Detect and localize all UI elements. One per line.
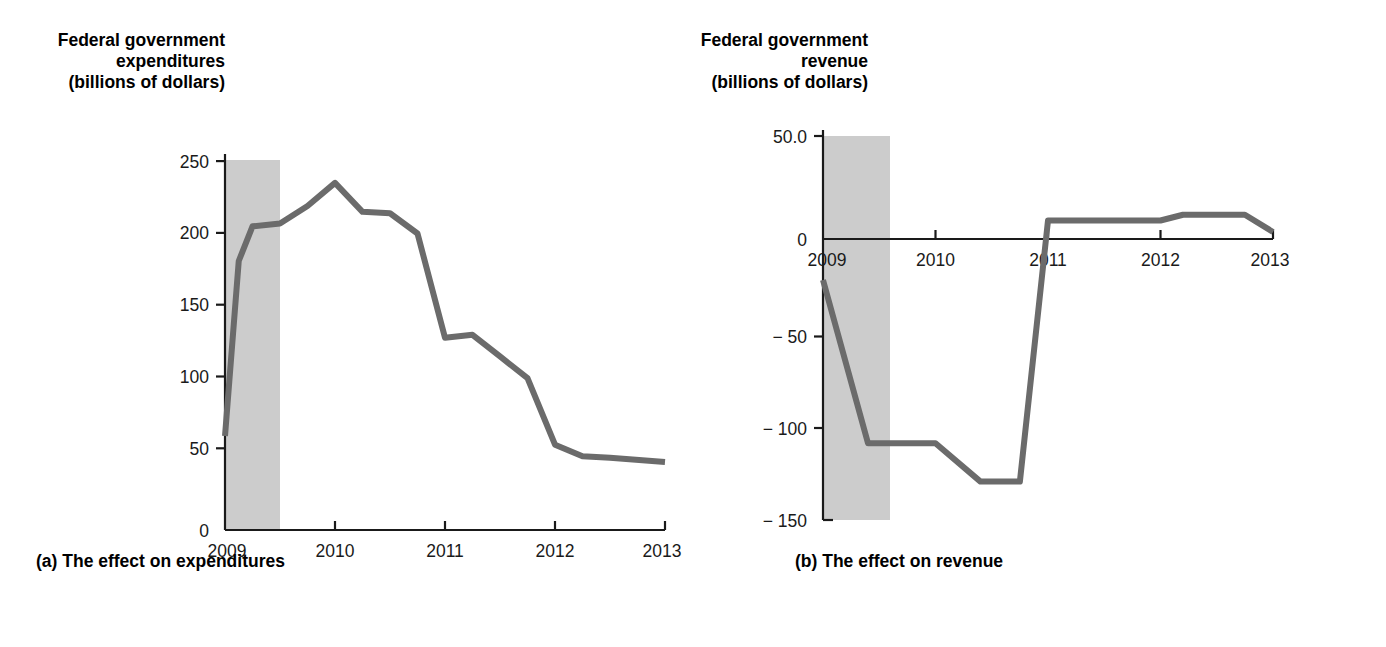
plot-area-expenditures: 250 200 150 100 50 0 2009 2010: [225, 130, 675, 530]
y-tick-labels: 50.0 0 − 50 − 100 − 150: [763, 127, 808, 531]
x-tick-label: 2010: [916, 250, 955, 270]
axis-title-revenue: Federal government revenue (billions of …: [653, 30, 868, 93]
x-tick-label: 2011: [426, 541, 464, 561]
figure-fiscal-stimulus-effects: Federal government expenditures (billion…: [0, 0, 1386, 647]
y-tick-label: − 150: [763, 511, 808, 531]
y-tick-label: 200: [180, 223, 209, 243]
x-tick-label: 2011: [1029, 250, 1067, 270]
y-tick-label: 0: [797, 230, 807, 250]
axis-title-expenditures: Federal government expenditures (billion…: [10, 30, 225, 93]
y-tick-label: 0: [199, 521, 209, 541]
chart-expenditures: 250 200 150 100 50 0 2009 2010: [225, 130, 675, 560]
caption-revenue: (b) The effect on revenue: [795, 551, 1003, 572]
x-tick-label: 2012: [1141, 250, 1180, 270]
y-tick-label: − 50: [772, 327, 807, 347]
y-ticks: [216, 161, 225, 448]
x-tick-label: 2009: [808, 250, 847, 270]
x-tick-label: 2012: [536, 541, 575, 561]
y-tick-labels: 250 200 150 100 50 0: [180, 152, 209, 541]
panel-revenue: Federal government revenue (billions of …: [693, 0, 1386, 647]
plot-area-revenue: 50.0 0 − 50 − 100 − 150 2009 2010 2011: [823, 130, 1283, 530]
chart-revenue: 50.0 0 − 50 − 100 − 150 2009 2010 2011: [823, 130, 1283, 560]
y-tick-label: 50.0: [773, 127, 807, 147]
y-tick-label: 50: [190, 439, 210, 459]
x-tick-label: 2010: [316, 541, 355, 561]
x-ticks: [335, 521, 665, 530]
y-tick-label: 250: [180, 152, 209, 172]
caption-expenditures: (a) The effect on expenditures: [36, 551, 285, 572]
recession-band: [823, 136, 890, 520]
panel-expenditures: Federal government expenditures (billion…: [0, 0, 693, 647]
y-tick-label: − 100: [763, 419, 808, 439]
x-ticks: [936, 230, 1274, 239]
x-tick-label: 2013: [1251, 250, 1290, 270]
y-tick-label: 100: [180, 367, 209, 387]
y-tick-label: 150: [180, 295, 209, 315]
x-tick-label: 2013: [643, 541, 682, 561]
data-line-expenditures: [225, 183, 665, 462]
